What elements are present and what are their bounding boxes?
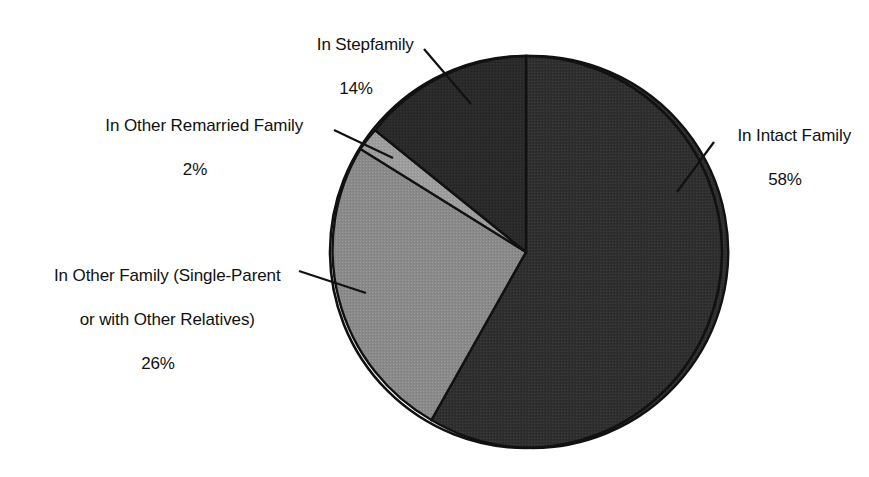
pie-label-stepfamily-text: In Stepfamily <box>317 35 414 54</box>
pie-label-other-remarried-family: In Other Remarried Family 2% <box>50 93 340 225</box>
pie-label-other-family: In Other Family (Single-Parent or with O… <box>8 243 308 419</box>
pie-label-other-remarried-family-text: In Other Remarried Family <box>105 116 303 135</box>
pie-label-intact-family-text: In Intact Family <box>737 126 851 145</box>
pie-label-other-remarried-family-value: 2% <box>50 159 340 181</box>
pie-chart: In Stepfamily 14% In Other Remarried Fam… <box>0 0 869 477</box>
pie-label-intact-family: In Intact Family 58% <box>700 103 869 235</box>
pie-label-intact-family-value: 58% <box>700 169 869 191</box>
pie-label-other-family-text-line2: or with Other Relatives) <box>80 310 255 329</box>
pie-label-other-family-value: 26% <box>8 353 308 375</box>
pie-label-other-family-text-line1: In Other Family (Single-Parent <box>54 266 281 285</box>
